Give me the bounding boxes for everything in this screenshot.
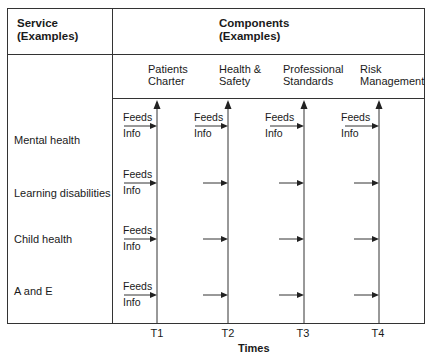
arrow-right-icon (297, 180, 304, 186)
arrow-right-icon (372, 123, 379, 129)
arrow-right-icon (221, 292, 228, 298)
feeds-text: Feeds (194, 111, 223, 123)
arrow-right-icon (221, 180, 228, 186)
feeds-text: Feeds (123, 168, 152, 180)
time-label-t4: T4 (368, 327, 388, 339)
arrow-right-icon (221, 236, 228, 242)
feeds-info-label: Feeds Info (123, 224, 152, 252)
feeds-info-label: Feeds Info (194, 111, 223, 139)
feeds-text: Feeds (265, 111, 294, 123)
arrow-right-icon (297, 236, 304, 242)
info-text: Info (123, 296, 152, 308)
feeds-text: Feeds (123, 280, 152, 292)
arrow-right-icon (297, 292, 304, 298)
feeds-text: Feeds (123, 224, 152, 236)
feeds-info-label: Feeds Info (341, 111, 370, 139)
arrow-right-icon (372, 236, 379, 242)
time-label-t1: T1 (147, 327, 167, 339)
feeds-info-label: Feeds Info (123, 168, 152, 196)
arrow-up-icon (301, 100, 308, 109)
feeds-info-label: Feeds Info (123, 111, 152, 139)
arrow-up-icon (154, 100, 161, 109)
axis-label-times: Times (238, 342, 270, 355)
info-text: Info (265, 127, 294, 139)
arrow-right-icon (372, 292, 379, 298)
timeline-arrows (0, 0, 432, 357)
time-label-t3: T3 (293, 327, 313, 339)
arrow-up-icon (376, 100, 383, 109)
arrow-up-icon (225, 100, 232, 109)
feeds-text: Feeds (341, 111, 370, 123)
info-text: Info (123, 127, 152, 139)
feeds-text: Feeds (123, 111, 152, 123)
arrow-right-icon (297, 123, 304, 129)
info-text: Info (194, 127, 223, 139)
info-text: Info (123, 240, 152, 252)
info-text: Info (341, 127, 370, 139)
info-text: Info (123, 184, 152, 196)
feeds-info-label: Feeds Info (265, 111, 294, 139)
time-label-t2: T2 (218, 327, 238, 339)
arrow-right-icon (372, 180, 379, 186)
feeds-info-label: Feeds Info (123, 280, 152, 308)
